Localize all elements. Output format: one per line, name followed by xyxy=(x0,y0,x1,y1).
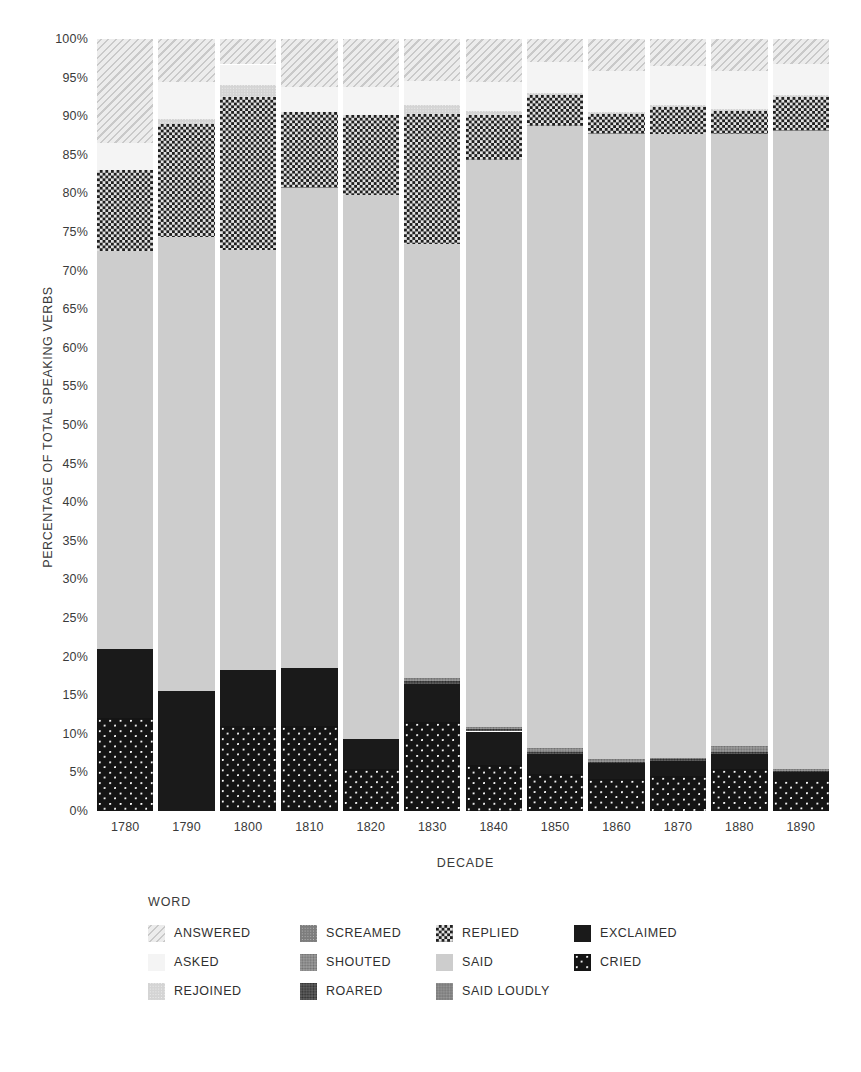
bar-segment[interactable] xyxy=(343,115,399,195)
legend-item[interactable]: REPLIED xyxy=(436,922,519,944)
legend-item[interactable]: SAID xyxy=(436,951,493,973)
bar-segment[interactable] xyxy=(711,752,767,754)
bar-segment[interactable] xyxy=(588,71,644,112)
bar-segment[interactable] xyxy=(97,251,153,649)
bar-segment[interactable] xyxy=(158,691,214,811)
bar-segment[interactable] xyxy=(527,748,583,752)
bar-segment[interactable] xyxy=(650,66,706,105)
bar-segment[interactable] xyxy=(527,752,583,754)
bar-segment[interactable] xyxy=(343,769,399,811)
bar-segment[interactable] xyxy=(588,112,644,114)
bar-segment[interactable] xyxy=(466,729,522,731)
bar-segment[interactable] xyxy=(527,93,583,95)
bar-segment[interactable] xyxy=(650,759,706,761)
bar-segment[interactable] xyxy=(527,62,583,93)
bar-segment[interactable] xyxy=(404,114,460,244)
bar-segment[interactable] xyxy=(281,87,337,112)
bar-segment[interactable] xyxy=(588,779,644,811)
bar-segment[interactable] xyxy=(404,39,460,81)
bar-segment[interactable] xyxy=(466,160,522,727)
legend-item[interactable]: ASKED xyxy=(148,951,219,973)
bar-segment[interactable] xyxy=(773,780,829,811)
bar-segment[interactable] xyxy=(711,134,767,746)
bar-segment[interactable] xyxy=(158,237,214,691)
bar-segment[interactable] xyxy=(404,681,460,684)
bar-segment[interactable] xyxy=(527,39,583,62)
legend-item[interactable]: SAID LOUDLY xyxy=(436,980,550,1002)
bar-column[interactable] xyxy=(773,39,829,811)
bar-column[interactable] xyxy=(466,39,522,811)
legend-item[interactable]: SHOUTED xyxy=(300,951,391,973)
bar-segment[interactable] xyxy=(343,739,399,768)
bar-segment[interactable] xyxy=(650,107,706,134)
bar-segment[interactable] xyxy=(404,722,460,811)
bar-column[interactable] xyxy=(711,39,767,811)
bar-column[interactable] xyxy=(281,39,337,811)
bar-segment[interactable] xyxy=(650,758,706,760)
bar-segment[interactable] xyxy=(220,65,276,85)
bar-column[interactable] xyxy=(404,39,460,811)
bar-segment[interactable] xyxy=(588,762,644,764)
bar-segment[interactable] xyxy=(220,250,276,670)
bar-segment[interactable] xyxy=(773,95,829,97)
bar-segment[interactable] xyxy=(650,39,706,66)
bar-segment[interactable] xyxy=(220,85,276,97)
bar-segment[interactable] xyxy=(711,746,767,751)
bar-segment[interactable] xyxy=(773,131,829,769)
bar-segment[interactable] xyxy=(711,109,767,111)
bar-column[interactable] xyxy=(527,39,583,811)
bar-segment[interactable] xyxy=(404,678,460,680)
bar-segment[interactable] xyxy=(158,39,214,82)
bar-segment[interactable] xyxy=(773,769,829,771)
bar-segment[interactable] xyxy=(158,82,214,119)
bar-segment[interactable] xyxy=(158,124,214,237)
legend-item[interactable]: REJOINED xyxy=(148,980,242,1002)
bar-segment[interactable] xyxy=(97,649,153,718)
bar-segment[interactable] xyxy=(711,71,767,110)
bar-segment[interactable] xyxy=(220,726,276,811)
bar-column[interactable] xyxy=(97,39,153,811)
bar-column[interactable] xyxy=(343,39,399,811)
bar-segment[interactable] xyxy=(588,134,644,759)
bar-segment[interactable] xyxy=(588,763,644,778)
bar-segment[interactable] xyxy=(527,95,583,126)
bar-segment[interactable] xyxy=(773,64,829,95)
bar-segment[interactable] xyxy=(220,97,276,250)
bar-segment[interactable] xyxy=(281,39,337,87)
bar-segment[interactable] xyxy=(158,119,214,124)
bar-segment[interactable] xyxy=(404,105,460,113)
bar-segment[interactable] xyxy=(281,668,337,726)
bar-segment[interactable] xyxy=(466,727,522,729)
bar-segment[interactable] xyxy=(711,39,767,71)
bar-segment[interactable] xyxy=(97,170,153,251)
bar-segment[interactable] xyxy=(97,39,153,143)
bar-segment[interactable] xyxy=(527,126,583,747)
bar-segment[interactable] xyxy=(773,97,829,131)
bar-segment[interactable] xyxy=(97,718,153,811)
legend-item[interactable]: ANSWERED xyxy=(148,922,251,944)
bar-segment[interactable] xyxy=(527,774,583,811)
bar-segment[interactable] xyxy=(773,39,829,64)
bar-segment[interactable] xyxy=(711,754,767,769)
bar-segment[interactable] xyxy=(588,114,644,134)
bar-segment[interactable] xyxy=(527,754,583,774)
bar-segment[interactable] xyxy=(281,726,337,811)
bar-segment[interactable] xyxy=(588,39,644,71)
bar-segment[interactable] xyxy=(650,134,706,758)
legend-item[interactable]: CRIED xyxy=(574,951,642,973)
bar-segment[interactable] xyxy=(404,81,460,105)
bar-segment[interactable] xyxy=(404,244,460,679)
bar-segment[interactable] xyxy=(773,771,829,773)
bar-segment[interactable] xyxy=(343,39,399,87)
bar-column[interactable] xyxy=(158,39,214,811)
bar-column[interactable] xyxy=(650,39,706,811)
bar-segment[interactable] xyxy=(466,115,522,161)
bar-segment[interactable] xyxy=(466,39,522,82)
bar-segment[interactable] xyxy=(711,111,767,134)
bar-segment[interactable] xyxy=(343,87,399,115)
bar-segment[interactable] xyxy=(97,143,153,170)
bar-segment[interactable] xyxy=(343,195,399,739)
bar-segment[interactable] xyxy=(588,759,644,761)
bar-segment[interactable] xyxy=(650,761,706,776)
bar-segment[interactable] xyxy=(466,82,522,111)
